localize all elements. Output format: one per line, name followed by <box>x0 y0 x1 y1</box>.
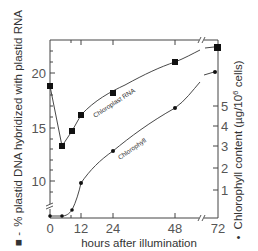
y-right-tick-2: 2 <box>221 161 228 176</box>
data-point <box>111 149 115 153</box>
data-point <box>60 214 64 218</box>
data-point <box>69 128 75 134</box>
x-tick-72: 72 <box>211 221 225 236</box>
y-right-title-text: Chlorophyll content ( <box>232 124 244 230</box>
plot-frame <box>50 40 218 218</box>
x-tick-48: 48 <box>168 221 182 236</box>
y-left-title-text: % plastid DNA hybridized with plastid RN… <box>12 10 24 227</box>
y-right-title-suffix: cells) <box>232 60 244 90</box>
y-left-ticks <box>50 51 55 192</box>
data-point <box>214 44 221 51</box>
y-left-tick-20: 20 <box>32 66 46 81</box>
svg-text:• Chlorophyll content (µ: • Chlorophyll content (µg/106 cells) <box>231 60 244 239</box>
data-point <box>173 106 177 110</box>
rna-markers <box>47 44 221 149</box>
chart: 0 12 24 48 72 20 15 10 5 4 3 2 1 <box>0 0 258 251</box>
data-point <box>70 208 74 212</box>
y-left-tick-labels: 20 15 10 <box>32 66 46 189</box>
x-tick-12: 12 <box>74 221 88 236</box>
y-right-tick-4: 4 <box>221 119 228 134</box>
y-right-title-unit: µg/10 <box>232 95 244 124</box>
svg-text:■ - % plastid DNA hybrid: ■ - % plastid DNA hybridized with plasti… <box>12 10 24 246</box>
dot-marker-icon: • <box>232 236 244 240</box>
y-right-tick-labels: 5 4 3 2 1 <box>221 99 228 198</box>
x-tick-24: 24 <box>106 221 120 236</box>
y-right-title: • Chlorophyll content (µg/106 cells) <box>231 60 244 239</box>
curve-label-chlorophyll: Chlorophyll <box>117 136 149 162</box>
x-tick-0: 0 <box>46 221 53 236</box>
y-right-tick-5: 5 <box>221 99 228 114</box>
data-point <box>78 112 84 118</box>
data-point <box>47 83 53 89</box>
y-left-tick-10: 10 <box>32 174 46 189</box>
x-ticks <box>71 40 175 218</box>
x-axis-title: hours after illumination <box>81 237 197 249</box>
data-point <box>172 59 178 65</box>
y-left-tick-15: 15 <box>32 121 46 136</box>
y-right-ticks <box>213 106 218 190</box>
data-point <box>48 214 52 218</box>
data-point <box>59 143 65 149</box>
data-point <box>110 90 116 96</box>
data-point <box>79 181 83 185</box>
y-right-tick-1: 1 <box>221 183 228 198</box>
y-right-tick-3: 3 <box>221 139 228 154</box>
y-left-title: ■ - % plastid DNA hybridized with plasti… <box>12 10 24 246</box>
data-point <box>213 70 217 74</box>
x-tick-labels: 0 12 24 48 72 <box>46 221 225 236</box>
square-marker-icon: ■ - <box>12 232 24 246</box>
